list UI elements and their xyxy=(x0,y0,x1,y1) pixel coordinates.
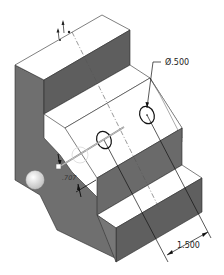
handle-point-icon[interactable] xyxy=(56,164,61,169)
cad-model-viewport[interactable]: Ø.500 1.500 .707 xyxy=(0,0,224,275)
sphere-handle[interactable] xyxy=(26,171,44,189)
diameter-label: Ø.500 xyxy=(165,57,189,67)
offset-label: .707 xyxy=(62,174,77,182)
spacing-label: 1.500 xyxy=(177,241,200,250)
